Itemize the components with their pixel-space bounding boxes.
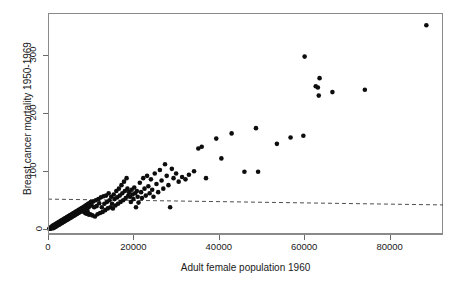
x-axis-title: Adult female population 1960 <box>48 262 443 273</box>
data-point <box>158 168 163 173</box>
data-point <box>174 171 179 176</box>
y-axis-line <box>48 13 49 234</box>
data-point <box>154 182 159 187</box>
data-point <box>199 144 204 149</box>
data-point <box>143 193 148 198</box>
data-point <box>159 178 164 183</box>
x-tick-mark <box>390 235 391 240</box>
data-point <box>138 181 143 186</box>
data-point <box>316 93 321 98</box>
data-point <box>330 90 335 95</box>
data-point <box>135 194 140 199</box>
y-tick-label-text: 0 <box>33 226 44 231</box>
data-point <box>171 176 176 181</box>
x-tick-label: 60000 <box>274 241 334 252</box>
data-points-layer <box>48 13 443 234</box>
x-tick-mark <box>133 235 134 240</box>
data-point <box>139 190 144 195</box>
data-point <box>192 169 197 174</box>
y-tick-label: 100 <box>0 165 41 176</box>
x-tick-mark <box>219 235 220 240</box>
data-point <box>275 142 280 147</box>
data-point <box>183 177 188 182</box>
x-tick-label: 20000 <box>103 241 163 252</box>
x-tick-label: 80000 <box>360 241 420 252</box>
y-axis-title: Breast cancer mortality 1950-1969 <box>22 9 33 229</box>
x-axis-line <box>48 234 443 235</box>
x-tick-mark <box>304 235 305 240</box>
x-tick-label: 40000 <box>189 241 249 252</box>
y-tick-mark <box>43 113 48 114</box>
data-point <box>146 184 151 189</box>
data-point <box>254 126 259 131</box>
data-point <box>140 196 145 201</box>
data-point <box>187 172 192 177</box>
data-point <box>145 174 150 179</box>
data-point <box>302 54 307 59</box>
data-point <box>131 197 136 202</box>
data-point <box>204 176 209 181</box>
data-point <box>288 135 293 140</box>
data-point <box>219 156 224 161</box>
y-tick-label: 200 <box>0 107 41 118</box>
data-point <box>161 186 166 191</box>
scatter-plot-screenshot: 020000400006000080000 0100200300 Adult f… <box>0 0 455 287</box>
data-point <box>142 186 147 191</box>
data-point <box>301 133 306 138</box>
data-point <box>242 169 247 174</box>
data-point <box>168 205 173 210</box>
data-point <box>214 136 219 141</box>
data-point <box>141 176 146 181</box>
y-tick-label: 0 <box>0 223 41 234</box>
data-point <box>424 23 429 28</box>
data-point <box>134 205 139 210</box>
data-point <box>229 131 234 136</box>
data-point <box>164 174 169 179</box>
data-point <box>176 179 181 184</box>
data-point <box>150 188 155 193</box>
data-point <box>317 76 322 81</box>
data-point <box>166 183 171 188</box>
data-point <box>316 85 321 90</box>
data-point <box>149 177 154 182</box>
x-tick-label: 0 <box>18 241 78 252</box>
data-point <box>163 162 168 167</box>
data-point <box>124 176 129 181</box>
x-tick-mark <box>48 235 49 240</box>
data-point <box>152 171 157 176</box>
data-point <box>136 200 141 205</box>
data-point <box>151 194 156 199</box>
data-point <box>363 87 368 92</box>
y-tick-mark <box>43 171 48 172</box>
data-point <box>256 169 261 174</box>
data-point <box>156 190 161 195</box>
y-tick-label: 300 <box>0 49 41 60</box>
y-tick-mark <box>43 55 48 56</box>
data-point <box>135 189 140 194</box>
data-point <box>170 167 175 172</box>
data-point <box>97 201 102 206</box>
plot-area <box>48 13 443 234</box>
